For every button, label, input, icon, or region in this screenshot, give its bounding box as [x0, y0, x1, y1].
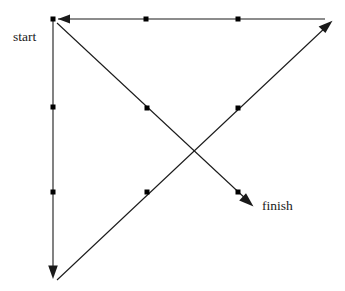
start-label: start: [13, 30, 36, 44]
node-marker-top-mid: [144, 17, 149, 22]
arrowhead-up-right-icon: [319, 21, 333, 33]
finish-label: finish: [262, 199, 293, 213]
arrowhead-down-icon: [48, 266, 58, 280]
node-marker-top-right: [236, 17, 241, 22]
edge-descending-diagonal: [57, 23, 247, 200]
node-marker-desc-lower: [236, 190, 241, 195]
edge-ascending-diagonal: [57, 27, 326, 280]
node-marker-left-lower: [51, 190, 56, 195]
diagram-canvas: start finish: [0, 0, 345, 291]
arrowhead-left-icon: [58, 15, 70, 24]
node-marker-asc-upper: [236, 106, 241, 111]
path-diagram: [0, 0, 345, 291]
node-marker-desc-upper: [145, 106, 150, 111]
node-marker-start: [51, 17, 56, 22]
node-marker-left-upper: [51, 105, 56, 110]
node-marker-asc-lower: [145, 190, 150, 195]
